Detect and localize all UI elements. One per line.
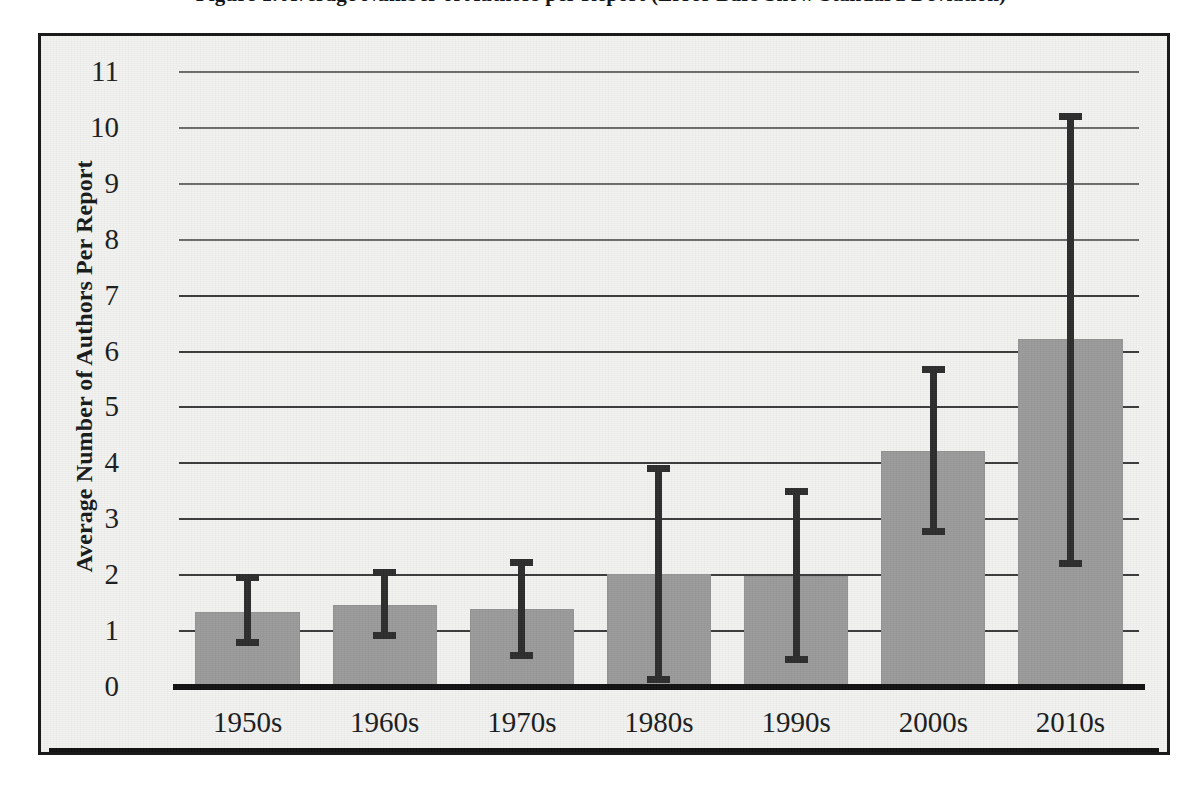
bar-group-2010s: [1002, 71, 1139, 686]
x-axis-line: [173, 684, 1145, 690]
error-cap-top-1960s: [373, 569, 396, 576]
bar-group-1970s: [453, 71, 590, 686]
x-tick-label-1970s: 1970s: [453, 699, 590, 745]
bar-group-1950s: [179, 71, 316, 686]
x-tick-label-2000s: 2000s: [865, 699, 1002, 745]
error-cap-top-2000s: [922, 366, 945, 373]
bar-group-1990s: [728, 71, 865, 686]
y-tick-label-4: 4: [59, 448, 119, 477]
error-bar-1970s: [518, 559, 525, 660]
y-tick-label-3: 3: [59, 504, 119, 533]
error-cap-top-1950s: [236, 574, 259, 581]
error-cap-bottom-2000s: [922, 528, 945, 535]
error-bar-1950s: [244, 574, 251, 646]
y-tick-label-2: 2: [59, 560, 119, 589]
y-tick-label-11: 11: [59, 57, 119, 86]
y-tick-label-5: 5: [59, 392, 119, 421]
figure-bottom-rule: [49, 748, 1159, 752]
error-cap-bottom-2010s: [1059, 560, 1082, 567]
y-tick-label-8: 8: [59, 224, 119, 253]
bar-group-1960s: [316, 71, 453, 686]
error-cap-top-1990s: [785, 488, 808, 495]
error-cap-bottom-1970s: [510, 652, 533, 659]
error-cap-top-2010s: [1059, 113, 1082, 120]
x-tick-label-1990s: 1990s: [728, 699, 865, 745]
plot-area: 01234567891011: [179, 71, 1139, 686]
y-tick-label-10: 10: [59, 112, 119, 141]
bar-group-2000s: [865, 71, 1002, 686]
error-cap-top-1980s: [647, 465, 670, 472]
error-bar-2000s: [930, 366, 937, 535]
y-tick-label-7: 7: [59, 280, 119, 309]
bar-group-1980s: [590, 71, 727, 686]
y-tick-label-9: 9: [59, 168, 119, 197]
x-tick-label-1950s: 1950s: [179, 699, 316, 745]
error-bar-1980s: [655, 465, 662, 683]
error-bar-1990s: [793, 488, 800, 663]
x-axis-tick-labels: 1950s1960s1970s1980s1990s2000s2010s: [179, 699, 1139, 745]
error-cap-bottom-1950s: [236, 639, 259, 646]
error-cap-top-1970s: [510, 559, 533, 566]
y-tick-label-6: 6: [59, 336, 119, 365]
figure-title: Figure 1. Average Number of Authors per …: [0, 0, 1202, 8]
x-tick-label-1960s: 1960s: [316, 699, 453, 745]
error-bar-2010s: [1067, 113, 1074, 567]
x-tick-label-2010s: 2010s: [1002, 699, 1139, 745]
error-bar-1960s: [381, 569, 388, 639]
x-tick-label-1980s: 1980s: [590, 699, 727, 745]
error-cap-bottom-1960s: [373, 632, 396, 639]
error-cap-bottom-1980s: [647, 676, 670, 683]
y-tick-label-1: 1: [59, 616, 119, 645]
error-cap-bottom-1990s: [785, 656, 808, 663]
y-tick-label-0: 0: [59, 672, 119, 701]
chart-plot-frame: Average Number of Authors Per Report 012…: [38, 33, 1170, 755]
